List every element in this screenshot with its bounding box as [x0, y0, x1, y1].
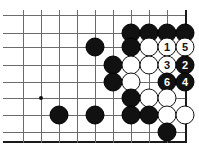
grid-line-vertical [23, 10, 24, 143]
move-number-label: 2 [182, 59, 188, 70]
go-board-diagram: 153264 [0, 0, 199, 154]
stone-black-r [122, 105, 141, 124]
grid-line-vertical [41, 10, 42, 143]
stone-black-e [86, 38, 105, 57]
stone-black-q [86, 105, 105, 124]
move-number-label: 6 [164, 76, 170, 87]
grid-line-vertical [77, 10, 78, 143]
stone-black-v [158, 123, 177, 142]
stone-black-p [50, 105, 69, 124]
move-number-label: 1 [164, 42, 170, 53]
stone-black-s [140, 105, 159, 124]
star-point [39, 96, 43, 100]
stone-white-u [176, 105, 195, 124]
move-number-label: 3 [164, 59, 170, 70]
move-number-label: 4 [182, 76, 188, 87]
stone-white-j [140, 55, 159, 74]
move-number-label: 5 [182, 42, 188, 53]
stone-black-k [104, 72, 123, 91]
stone-black-4: 4 [176, 72, 195, 91]
